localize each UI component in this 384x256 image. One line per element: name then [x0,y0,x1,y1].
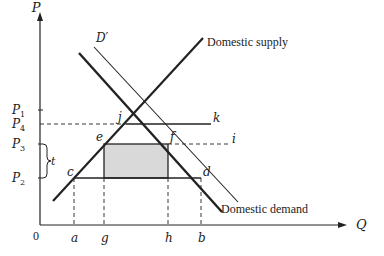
demand-curve-label: Domestic demand [221,202,308,216]
quantity-label-a: a [71,231,78,245]
point-label-i: i [232,132,236,146]
tariff-label: t [51,155,56,168]
origin-label: 0 [33,229,39,243]
shifted-demand-label: D′ [95,31,109,45]
quantity-label-h: h [165,231,173,245]
tariff-brace [43,144,51,178]
price-label-p2: P2 [11,171,25,187]
point-label-d: d [203,165,211,179]
point-label-c: c [67,165,74,179]
point-label-f: f [169,130,177,144]
price-label-p4: P4 [11,117,25,133]
point-label-j: j [115,110,122,124]
quantity-label-g: g [101,231,109,245]
x-axis-label: Q [356,217,367,232]
x-axis-arrow-icon [338,222,347,228]
y-axis-label: P [31,0,41,15]
supply-curve-label: Domestic supply [207,35,288,49]
shaded-area [104,144,168,178]
point-label-e: e [96,130,103,144]
quantity-label-b: b [198,231,206,245]
tariff-diagram: P Q 0 P1 P4 P3 P2 t a g h b j k e f i c … [0,0,384,256]
price-label-p3: P3 [11,137,25,153]
point-label-k: k [213,111,220,125]
